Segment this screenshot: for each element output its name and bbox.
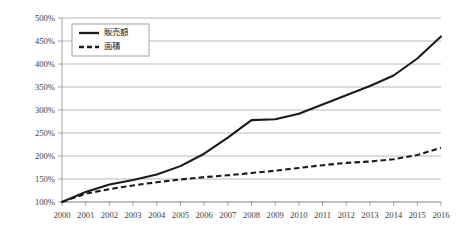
- chart-container: 100%150%200%250%300%350%400%450%500% 200…: [0, 0, 457, 237]
- x-tick-label: 2007: [219, 210, 237, 220]
- x-tick-label: 2009: [267, 210, 284, 220]
- y-tick-label: 450%: [35, 36, 55, 46]
- x-tick-label: 2013: [361, 210, 378, 220]
- y-tick-label: 500%: [35, 13, 55, 23]
- y-tick-label: 100%: [35, 197, 55, 207]
- chart-legend: 販売額面積: [72, 24, 149, 56]
- x-tick-label: 2006: [196, 210, 214, 220]
- y-tick-label: 200%: [35, 151, 55, 161]
- x-tick-label: 2012: [338, 210, 355, 220]
- x-tick-label: 2015: [409, 210, 426, 220]
- chart-background: [0, 0, 457, 237]
- x-tick-label: 2008: [243, 210, 260, 220]
- x-tick-label: 2011: [314, 210, 331, 220]
- y-tick-label: 250%: [35, 128, 55, 138]
- y-tick-label: 400%: [35, 59, 55, 69]
- x-tick-label: 2002: [101, 210, 118, 220]
- y-tick-label: 150%: [35, 174, 55, 184]
- y-tick-label: 300%: [35, 105, 55, 115]
- x-tick-label: 2003: [124, 210, 141, 220]
- x-tick-label: 2016: [432, 210, 450, 220]
- x-tick-label: 2005: [172, 210, 189, 220]
- x-tick-label: 2001: [77, 210, 94, 220]
- y-tick-label: 350%: [35, 82, 55, 92]
- x-tick-label: 2014: [385, 210, 403, 220]
- x-tick-label: 2010: [290, 210, 307, 220]
- legend-label: 面積: [104, 41, 121, 51]
- line-chart: 100%150%200%250%300%350%400%450%500% 200…: [0, 0, 457, 237]
- legend-label: 販売額: [104, 27, 129, 37]
- x-tick-label: 2000: [53, 210, 70, 220]
- x-tick-label: 2004: [148, 210, 166, 220]
